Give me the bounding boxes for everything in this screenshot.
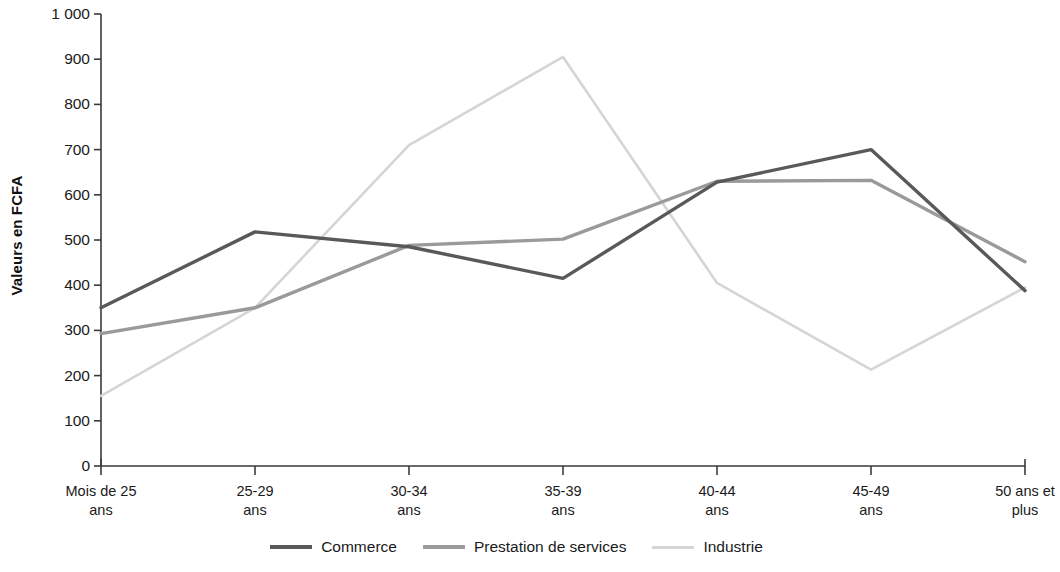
legend-swatch-prestation-de-services (423, 545, 465, 549)
y-tick-label: 400 (28, 277, 90, 293)
x-tick-label: 40-44 ans (647, 482, 787, 519)
y-tick-label: 700 (28, 142, 90, 158)
series-line-commerce (101, 150, 1025, 308)
legend-swatch-industrie (652, 546, 694, 549)
legend-item-commerce[interactable]: Commerce (270, 538, 397, 556)
legend-label-industrie: Industrie (703, 538, 762, 556)
y-tick-label: 100 (28, 413, 90, 429)
axis-layer (94, 14, 1025, 475)
series-line-industrie (101, 57, 1025, 396)
legend-swatch-commerce (270, 545, 312, 549)
y-tick-label: 0 (28, 458, 90, 474)
x-tick-label: 25-29 ans (185, 482, 325, 519)
y-tick-label: 1 000 (28, 6, 90, 22)
x-tick-label: 45-49 ans (801, 482, 941, 519)
y-tick-label: 300 (28, 322, 90, 338)
y-tick-label: 500 (28, 232, 90, 248)
y-tick-label: 600 (28, 187, 90, 203)
y-tick-label: 800 (28, 96, 90, 112)
legend-item-prestation-de-services[interactable]: Prestation de services (423, 538, 627, 556)
legend-label-commerce: Commerce (321, 538, 397, 556)
series-layer (101, 57, 1025, 396)
y-tick-label: 200 (28, 368, 90, 384)
y-tick-label: 900 (28, 51, 90, 67)
x-tick-label: Mois de 25 ans (31, 482, 171, 519)
legend: CommercePrestation de servicesIndustrie (0, 538, 1033, 556)
legend-label-prestation-de-services: Prestation de services (474, 538, 627, 556)
x-tick-label: 30-34 ans (339, 482, 479, 519)
x-tick-label: 35-39 ans (493, 482, 633, 519)
series-line-prestation-de-services (101, 180, 1025, 333)
legend-item-industrie[interactable]: Industrie (652, 538, 762, 556)
x-tick-label: 50 ans et plus (955, 482, 1060, 519)
